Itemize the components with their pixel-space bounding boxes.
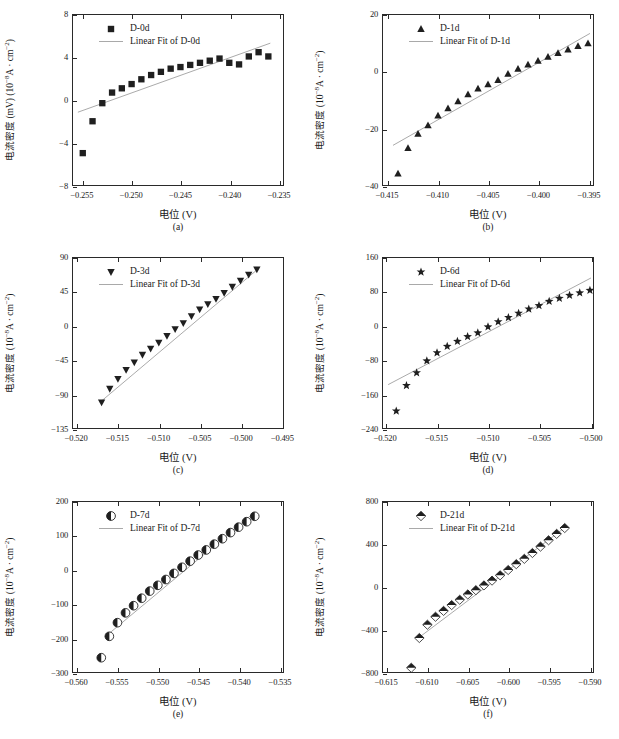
x-axis-title-d: 电位 (V)	[382, 449, 594, 464]
x-tick-label-b-4: −0.395	[578, 190, 601, 200]
legend-marker-diamond-half-icon	[406, 509, 436, 522]
x-axis-title-e: 电位 (V)	[72, 693, 284, 708]
y-axis-title-close-f: )	[315, 538, 325, 541]
y-tick-c-3	[73, 327, 77, 328]
x-tick-top-a-3	[231, 15, 232, 19]
y-tick-label-e-1: −200	[34, 634, 68, 644]
x-tick-b-3	[539, 181, 540, 185]
x-tick-label-d-1: −0.515	[425, 433, 448, 443]
y-axis-title-exp-a: −8	[3, 76, 11, 83]
y-axis-title-exp2-f: −2	[313, 541, 321, 548]
x-tick-f-1	[428, 668, 429, 672]
y-tick-c-2	[73, 361, 77, 362]
y-axis-title-main-e: 电流密度 (10	[5, 581, 15, 636]
x-tick-f-0	[387, 668, 388, 672]
y-axis-title-tail-c: A · cm	[5, 304, 15, 330]
x-tick-a-3	[231, 181, 232, 185]
x-tick-top-e-5	[281, 502, 282, 506]
x-axis-title-a: 电位 (V)	[72, 206, 284, 221]
x-tick-label-a-1: −0.250	[120, 190, 143, 200]
y-tick-a-4	[73, 15, 77, 16]
x-tick-d-0	[386, 424, 387, 428]
y-axis-title-tail-b: A · cm	[315, 61, 325, 87]
x-axis-title-c: 电位 (V)	[72, 449, 284, 464]
x-tick-top-a-4	[280, 15, 281, 19]
legend-label-fit-f: Linear Fit of D-21d	[436, 522, 515, 535]
y-axis-title-main-f: 电流密度 (10	[315, 581, 325, 636]
legend-line-icon	[406, 278, 436, 291]
legend-label-series-c: D-3d	[126, 265, 150, 278]
y-axis-title-main-a: 电流密度 (mV) (10	[5, 83, 15, 161]
x-tick-a-1	[132, 181, 133, 185]
legend-marker-triangle-up-icon	[406, 22, 436, 35]
subplot-d: −0.520−0.515−0.510−0.505−0.500−240−160−8…	[310, 243, 619, 489]
y-axis-title-exp2-d: −2	[313, 297, 321, 304]
subplot-b: −0.415−0.410−0.405−0.400−0.395−40−20020电…	[310, 0, 619, 246]
x-tick-top-f-1	[428, 502, 429, 506]
x-tick-label-e-0: −0.560	[65, 677, 88, 687]
x-tick-top-e-3	[199, 502, 200, 506]
y-tick-label-b-3: 20	[344, 9, 378, 19]
subplot-c: −0.520−0.515−0.510−0.505−0.500−0.495−135…	[0, 243, 309, 489]
y-tick-f-0	[383, 674, 387, 675]
legend-line-icon	[406, 35, 436, 48]
x-tick-top-d-3	[540, 258, 541, 262]
y-tick-label-f-1: −400	[344, 625, 378, 635]
legend-marker-square-icon	[96, 22, 126, 35]
y-tick-f-3	[383, 545, 387, 546]
legend-a: D-0d Linear Fit of D-0d	[96, 22, 200, 48]
subplot-caption-c: (c)	[72, 465, 284, 475]
x-tick-a-2	[181, 181, 182, 185]
x-tick-label-f-0: −0.615	[375, 677, 398, 687]
subplot-e: −0.560−0.555−0.550−0.545−0.540−0.535−300…	[0, 487, 309, 733]
x-tick-c-0	[77, 424, 78, 428]
x-tick-label-b-3: −0.400	[527, 190, 550, 200]
y-axis-title-close-b: )	[315, 51, 325, 54]
y-tick-label-c-1: −90	[34, 390, 68, 400]
x-tick-top-c-2	[160, 258, 161, 262]
x-tick-label-a-3: −0.240	[218, 190, 241, 200]
x-tick-d-3	[540, 424, 541, 428]
y-axis-title-exp2-b: −2	[313, 54, 321, 61]
y-axis-title-exp-d: −8	[313, 330, 321, 337]
y-tick-d-3	[383, 327, 387, 328]
y-tick-f-2	[383, 588, 387, 589]
legend-e: D-7d Linear Fit of D-7d	[96, 509, 200, 535]
x-tick-c-5	[283, 424, 284, 428]
y-tick-d-0	[383, 430, 387, 431]
y-tick-label-f-0: −800	[344, 668, 378, 678]
legend-entry-series-f: D-21d	[406, 509, 515, 522]
y-tick-f-4	[383, 502, 387, 503]
x-tick-label-f-2: −0.605	[456, 677, 479, 687]
x-tick-label-e-3: −0.545	[187, 677, 210, 687]
subplot-caption-f: (f)	[382, 709, 594, 719]
x-axis-title-b: 电位 (V)	[382, 206, 594, 221]
legend-entry-fit-a: Linear Fit of D-0d	[96, 35, 200, 48]
x-tick-top-f-5	[591, 502, 592, 506]
x-tick-label-f-5: −0.590	[579, 677, 602, 687]
x-tick-c-3	[201, 424, 202, 428]
legend-label-fit-b: Linear Fit of D-1d	[436, 35, 510, 48]
y-axis-title-close-d: )	[315, 294, 325, 297]
x-tick-top-a-0	[83, 15, 84, 19]
legend-label-series-d: D-6d	[436, 265, 460, 278]
x-tick-top-f-4	[550, 502, 551, 506]
y-tick-label-f-3: 400	[344, 539, 378, 549]
x-tick-label-e-4: −0.540	[228, 677, 251, 687]
y-axis-title-tail-f: A · cm	[315, 548, 325, 574]
y-axis-title-main-c: 电流密度 (10	[5, 337, 15, 392]
legend-line-icon	[406, 522, 436, 535]
x-tick-label-e-1: −0.555	[105, 677, 128, 687]
legend-label-series-f: D-21d	[436, 509, 464, 522]
x-tick-top-f-0	[387, 502, 388, 506]
x-tick-b-2	[489, 181, 490, 185]
x-tick-label-d-0: −0.520	[374, 433, 397, 443]
y-tick-e-1	[73, 640, 77, 641]
y-axis-title-main-b: 电流密度 (10	[315, 94, 325, 149]
x-tick-e-3	[199, 668, 200, 672]
y-tick-label-a-3: 4	[34, 52, 68, 62]
legend-entry-series-a: D-0d	[96, 22, 200, 35]
y-tick-label-d-1: −160	[344, 390, 378, 400]
x-tick-e-5	[281, 668, 282, 672]
y-tick-label-f-2: 0	[344, 582, 378, 592]
